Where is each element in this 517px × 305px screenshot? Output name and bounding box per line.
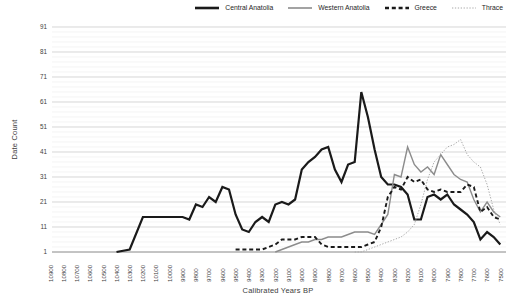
legend-swatch-thrace bbox=[451, 5, 477, 11]
legend-item-greece: Greece bbox=[384, 4, 437, 11]
legend-swatch-western-anatolia bbox=[287, 5, 313, 11]
x-tick-label: 10500 bbox=[100, 264, 107, 282]
y-tick-label: 61 bbox=[40, 98, 48, 105]
x-tick-label: 8800 bbox=[325, 268, 332, 282]
x-tick-label: 10200 bbox=[139, 264, 146, 282]
legend-item-central-anatolia: Central Anatolia bbox=[194, 4, 273, 11]
x-tick-label: 9300 bbox=[258, 268, 265, 282]
y-tick-label: 31 bbox=[40, 173, 48, 180]
x-tick-label: 7500 bbox=[497, 268, 504, 282]
x-tick-label: 8500 bbox=[364, 268, 371, 282]
x-tick-label: 9100 bbox=[285, 268, 292, 282]
y-tick-label: 21 bbox=[40, 198, 48, 205]
legend-item-western-anatolia: Western Anatolia bbox=[287, 4, 369, 11]
y-tick-label: 81 bbox=[40, 48, 48, 55]
x-tick-label: 8300 bbox=[391, 268, 398, 282]
y-tick-label: 71 bbox=[40, 73, 48, 80]
y-tick-label: 51 bbox=[40, 123, 48, 130]
series-line-greece bbox=[236, 177, 501, 250]
legend-label: Central Anatolia bbox=[225, 4, 273, 11]
x-tick-label: 8900 bbox=[311, 268, 318, 282]
x-tick-label: 10800 bbox=[60, 264, 67, 282]
x-tick-label: 7900 bbox=[444, 268, 451, 282]
x-tick-label: 9500 bbox=[232, 268, 239, 282]
x-tick-label: 9700 bbox=[205, 268, 212, 282]
y-tick-label: 41 bbox=[40, 148, 48, 155]
x-tick-label: 10300 bbox=[126, 264, 133, 282]
x-tick-label: 8100 bbox=[417, 268, 424, 282]
x-tick-label: 7800 bbox=[457, 268, 464, 282]
x-tick-label: 9200 bbox=[272, 268, 279, 282]
legend-swatch-central-anatolia bbox=[194, 5, 220, 11]
legend: Central AnatoliaWestern AnatoliaGreeceTh… bbox=[194, 4, 503, 11]
chart-container: 1112131415161718191109001080010700106001… bbox=[0, 0, 517, 305]
legend-item-thrace: Thrace bbox=[451, 4, 503, 11]
x-tick-label: 10000 bbox=[166, 264, 173, 282]
x-tick-label: 9800 bbox=[192, 268, 199, 282]
legend-swatch-greece bbox=[384, 5, 410, 11]
legend-label: Greece bbox=[415, 4, 437, 11]
chart-svg: 1112131415161718191109001080010700106001… bbox=[0, 0, 517, 305]
x-tick-label: 8400 bbox=[377, 268, 384, 282]
x-tick-label: 9600 bbox=[219, 268, 226, 282]
x-tick-label: 9900 bbox=[179, 268, 186, 282]
x-tick-label: 10100 bbox=[152, 264, 159, 282]
y-axis-title: Date Count bbox=[10, 80, 19, 200]
x-tick-label: 8000 bbox=[430, 268, 437, 282]
x-tick-label: 8600 bbox=[351, 268, 358, 282]
x-tick-label: 10900 bbox=[47, 264, 54, 282]
x-tick-label: 9400 bbox=[245, 268, 252, 282]
x-tick-label: 10600 bbox=[86, 264, 93, 282]
legend-label: Thrace bbox=[482, 4, 503, 11]
x-tick-label: 10400 bbox=[113, 264, 120, 282]
x-tick-label: 7700 bbox=[470, 268, 477, 282]
y-tick-label: 91 bbox=[40, 23, 48, 30]
x-tick-label: 8200 bbox=[404, 268, 411, 282]
x-tick-label: 8700 bbox=[338, 268, 345, 282]
x-tick-label: 7600 bbox=[483, 268, 490, 282]
x-tick-label: 9000 bbox=[298, 268, 305, 282]
x-axis-title: Calibrated Years BP bbox=[50, 286, 506, 295]
y-tick-label: 1 bbox=[43, 248, 47, 255]
legend-label: Western Anatolia bbox=[318, 4, 369, 11]
y-tick-label: 11 bbox=[40, 223, 47, 230]
x-tick-label: 10700 bbox=[73, 264, 80, 282]
